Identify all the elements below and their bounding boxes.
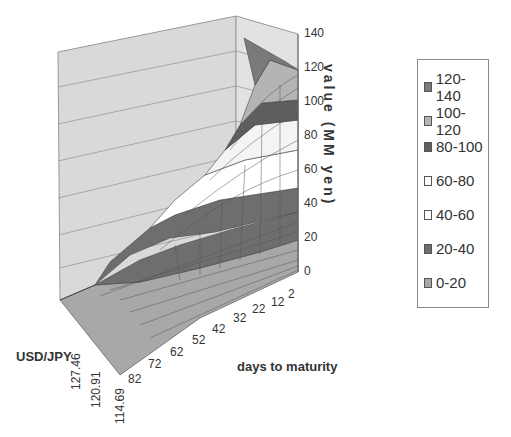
- svg-text:120.91: 120.91: [89, 371, 103, 408]
- legend-swatch: [424, 278, 432, 288]
- svg-text:82: 82: [128, 372, 142, 386]
- legend-swatch: [424, 142, 432, 152]
- legend-label: 100-120: [436, 104, 488, 138]
- legend-item: 0-20: [424, 274, 466, 291]
- svg-text:32: 32: [233, 311, 247, 325]
- z-axis-title: value (MM yen): [321, 64, 337, 206]
- x-axis-title: days to maturity: [237, 359, 338, 374]
- legend-item: 40-60: [424, 206, 474, 223]
- svg-text:20: 20: [304, 230, 318, 244]
- svg-text:22: 22: [252, 302, 266, 316]
- legend-item: 120-140: [424, 70, 488, 104]
- svg-text:60: 60: [304, 162, 318, 176]
- legend-swatch: [424, 82, 432, 92]
- legend-swatch: [424, 176, 432, 186]
- svg-text:40: 40: [304, 196, 318, 210]
- legend-label: 80-100: [436, 138, 483, 155]
- svg-text:0: 0: [304, 264, 311, 278]
- legend-item: 20-40: [424, 240, 474, 257]
- svg-text:72: 72: [148, 357, 162, 371]
- svg-text:140: 140: [304, 26, 324, 40]
- legend-swatch: [424, 244, 432, 254]
- legend-item: 80-100: [424, 138, 483, 155]
- legend-swatch: [424, 210, 432, 220]
- legend-item: 60-80: [424, 172, 474, 189]
- svg-text:52: 52: [192, 333, 206, 347]
- svg-text:80: 80: [304, 128, 318, 142]
- legend-label: 0-20: [436, 274, 466, 291]
- y-axis-title: USD/JPY: [16, 349, 72, 364]
- svg-text:114.69: 114.69: [113, 388, 127, 424]
- legend: 120-140 100-120 80-100 60-80 40-60 20-40…: [417, 59, 489, 308]
- legend-label: 60-80: [436, 172, 474, 189]
- legend-item: 100-120: [424, 104, 488, 138]
- legend-swatch: [424, 116, 432, 126]
- svg-text:2: 2: [288, 287, 295, 301]
- legend-label: 20-40: [436, 240, 474, 257]
- svg-text:62: 62: [170, 345, 184, 359]
- svg-text:12: 12: [271, 295, 285, 309]
- legend-label: 120-140: [436, 70, 488, 104]
- svg-text:42: 42: [212, 322, 226, 336]
- legend-label: 40-60: [436, 206, 474, 223]
